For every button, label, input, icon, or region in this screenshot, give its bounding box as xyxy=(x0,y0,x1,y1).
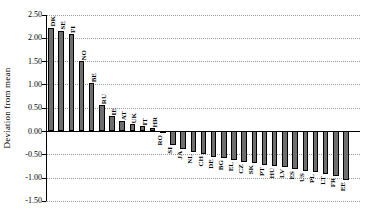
bar xyxy=(323,131,329,174)
gridline xyxy=(46,201,360,202)
category-label: SK xyxy=(247,165,255,174)
category-label: IT xyxy=(141,118,149,125)
bar xyxy=(252,131,258,163)
category-label: RU xyxy=(100,94,108,104)
category-label: AT xyxy=(120,111,128,120)
y-tick-label: -1.50 xyxy=(14,196,42,205)
category-label: PL xyxy=(308,174,316,183)
y-tick-mark xyxy=(42,201,46,202)
bar xyxy=(292,131,298,169)
y-axis-title: Deviation from mean xyxy=(2,68,12,149)
y-tick-label: 1.00 xyxy=(14,80,42,89)
gridline xyxy=(46,15,360,16)
bar xyxy=(69,34,75,131)
category-label: BE xyxy=(90,73,98,82)
y-tick-label: -1.00 xyxy=(14,173,42,182)
bar xyxy=(201,131,207,154)
bar xyxy=(231,131,237,160)
category-label: CH xyxy=(197,156,205,167)
category-label: IE xyxy=(110,108,118,115)
bar xyxy=(48,28,54,131)
bar-chart: Deviation from mean 2.502.001.501.000.50… xyxy=(0,0,367,216)
y-axis-line xyxy=(46,15,47,201)
bar xyxy=(170,131,176,145)
bar xyxy=(140,126,146,131)
gridline xyxy=(46,61,360,62)
category-label: NO xyxy=(80,50,88,61)
bar xyxy=(282,131,288,167)
category-label: RO xyxy=(156,135,164,146)
category-label: PT xyxy=(258,167,266,176)
category-label: EE xyxy=(339,182,347,191)
category-label: ES xyxy=(288,171,296,180)
y-tick-label: 0.00 xyxy=(14,127,42,136)
bar xyxy=(89,83,95,131)
category-label: BG xyxy=(217,160,225,170)
bar xyxy=(150,128,156,131)
bar xyxy=(79,61,85,131)
bar xyxy=(119,121,125,131)
bar xyxy=(58,31,64,131)
bar xyxy=(211,131,217,157)
category-label: SE xyxy=(59,21,67,30)
y-tick-label: 1.50 xyxy=(14,57,42,66)
category-label: LV xyxy=(278,169,286,178)
category-label: FR xyxy=(329,178,337,187)
bar xyxy=(241,131,247,162)
bar xyxy=(109,116,115,131)
bar xyxy=(99,105,105,131)
y-tick-label: 2.00 xyxy=(14,33,42,42)
category-label: HR xyxy=(151,117,159,128)
category-label: CZ xyxy=(237,164,245,174)
category-label: US xyxy=(298,173,306,182)
category-label: HU xyxy=(268,168,276,179)
bar xyxy=(313,131,319,172)
bar xyxy=(180,131,186,149)
category-label: SI xyxy=(166,147,174,154)
gridline xyxy=(46,38,360,39)
category-label: DK xyxy=(49,16,57,27)
bar xyxy=(272,131,278,166)
bar xyxy=(343,131,349,180)
bar xyxy=(160,131,166,133)
category-label: LT xyxy=(319,176,327,185)
y-tick-label: 0.50 xyxy=(14,103,42,112)
category-label: EL xyxy=(227,162,235,171)
y-tick-label: 2.50 xyxy=(14,10,42,19)
bar xyxy=(221,131,227,158)
bar xyxy=(191,131,197,152)
bar xyxy=(333,131,339,176)
category-label: DE xyxy=(207,159,215,169)
category-label: FI xyxy=(69,26,77,33)
bar xyxy=(262,131,268,165)
y-tick-label: -0.50 xyxy=(14,150,42,159)
category-label: UK xyxy=(130,113,138,124)
category-label: JA xyxy=(176,151,184,160)
bar xyxy=(130,124,136,131)
category-label: NL xyxy=(186,154,194,164)
bar xyxy=(303,131,309,171)
